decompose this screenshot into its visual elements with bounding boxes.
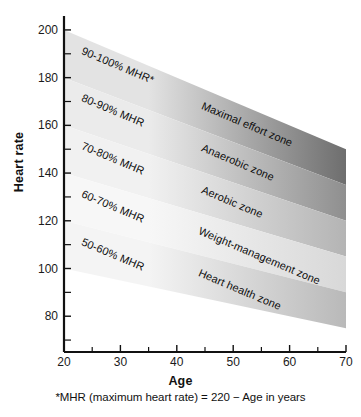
x-axis-title: Age (0, 374, 361, 388)
heart-rate-zone-chart: Heart rate 20018016014012010080 90-100% … (0, 0, 361, 417)
y-axis-tick-label: 160 (24, 119, 58, 131)
y-axis-tick-label: 120 (24, 215, 58, 227)
y-axis-tick-labels: 20018016014012010080 (20, 0, 58, 417)
chart-footnote: *MHR (maximum heart rate) = 220 − Age in… (0, 391, 361, 403)
x-axis-tick-label: 20 (47, 356, 81, 369)
y-axis-tick-label: 180 (24, 72, 58, 84)
x-axis-tick-label: 40 (160, 356, 194, 369)
x-axis-tick-label: 70 (329, 356, 361, 369)
y-axis-tick-label: 100 (24, 263, 58, 275)
y-axis-tick-label: 140 (24, 167, 58, 179)
x-axis-tick-label: 60 (273, 356, 307, 369)
x-axis-tick-label: 30 (103, 356, 137, 369)
x-axis-tick-label: 50 (216, 356, 250, 369)
y-axis-tick-label: 200 (24, 24, 58, 36)
y-axis-tick-label: 80 (24, 310, 58, 322)
